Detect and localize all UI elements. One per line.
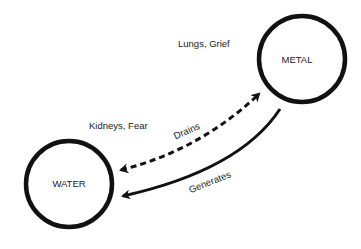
node-metal: METAL — [259, 16, 345, 102]
node-label-metal: METAL — [282, 54, 313, 65]
diagram-canvas: METAL WATER Lungs, Grief Kidneys, Fear D… — [0, 0, 361, 249]
node-water: WATER — [26, 141, 112, 227]
annotation-water: Kidneys, Fear — [89, 120, 148, 131]
diagram-svg: METAL WATER Lungs, Grief Kidneys, Fear D… — [0, 0, 361, 249]
node-label-water: WATER — [52, 178, 85, 189]
edge-label-generates: Generates — [187, 168, 232, 195]
annotation-metal: Lungs, Grief — [178, 38, 230, 49]
